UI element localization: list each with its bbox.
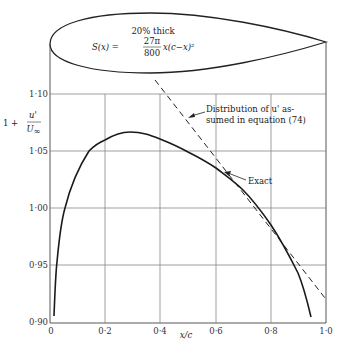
y-axis-label-num: u' bbox=[29, 110, 37, 120]
x-tick-1-0: 1·0 bbox=[319, 326, 333, 336]
x-tick-0-6: 0·6 bbox=[209, 326, 223, 336]
annotation-dashed-line1: Distribution of u' as- bbox=[206, 104, 294, 114]
y-tick-0-95: 0·95 bbox=[29, 260, 48, 270]
arrowhead-icon bbox=[188, 113, 195, 118]
airfoil-formula-den: 800 bbox=[144, 48, 160, 58]
chart: 20% thick S(x) = 27π 800 x(c−x)² 1·10 1·… bbox=[0, 0, 342, 350]
x-tick-0-2: 0·2 bbox=[98, 326, 112, 336]
y-tick-1-05: 1·05 bbox=[29, 146, 48, 156]
airfoil-formula-tail: x(c−x)² bbox=[163, 42, 195, 52]
x-axis-label: x/c bbox=[180, 330, 193, 340]
x-tick-0-4: 0·4 bbox=[153, 326, 167, 336]
series-exact-curve bbox=[54, 132, 311, 317]
airfoil-label-thickness: 20% thick bbox=[131, 26, 175, 36]
annotation-dashed-line2: sumed in equation (74) bbox=[206, 115, 306, 125]
y-tick-0-90: 0·90 bbox=[29, 317, 48, 327]
x-tick-0: 0 bbox=[48, 326, 53, 336]
y-axis-label-den-sub: ∞ bbox=[33, 126, 40, 136]
airfoil-formula-s: S(x) = bbox=[92, 42, 119, 52]
x-tick-0-8: 0·8 bbox=[264, 326, 278, 336]
y-tick-1-00: 1·00 bbox=[29, 203, 48, 213]
airfoil-formula-num: 27π bbox=[144, 36, 161, 46]
y-tick-1-10: 1·10 bbox=[29, 89, 48, 99]
annotation-exact: Exact bbox=[248, 176, 273, 186]
y-axis-label-prefix: 1 + bbox=[3, 118, 18, 128]
